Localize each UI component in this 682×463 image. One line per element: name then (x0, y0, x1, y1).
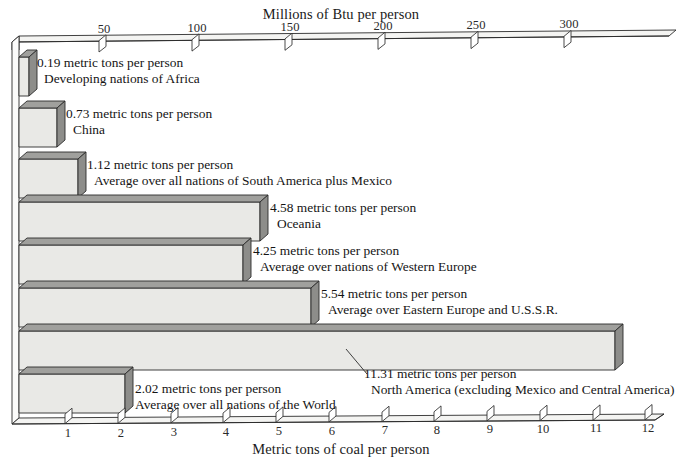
bar-south-america-plus-mexico (19, 152, 86, 198)
bar-annotation-north-america: 11.31 metric tons per person North Ameri… (364, 366, 674, 397)
top-tick-label-200: 200 (374, 19, 393, 34)
bottom-tick-label-5: 5 (276, 424, 282, 439)
bar-value-text: 1.12 metric tons per person (87, 157, 392, 173)
bar-category-text: North America (excluding Mexico and Cent… (364, 382, 674, 398)
bar-eastern-europe-and-ussr (19, 281, 319, 327)
bar-value-text: 2.02 metric tons per person (135, 381, 336, 397)
bottom-tick-label-7: 7 (382, 423, 388, 438)
bottom-tick-label-8: 8 (434, 423, 440, 438)
top-axis (12, 30, 676, 52)
bottom-tick-label-9: 9 (487, 422, 493, 437)
bar-value-text: 5.54 metric tons per person (321, 286, 558, 302)
left-axis-wall (12, 36, 19, 424)
bar-annotation-western-europe: 4.25 metric tons per person Average over… (253, 243, 477, 274)
bar-category-text: Oceania (270, 216, 416, 232)
bar-value-text: 11.31 metric tons per person (364, 366, 674, 382)
top-tick-label-50: 50 (98, 22, 111, 37)
top-tick-label-150: 150 (281, 20, 300, 35)
bar-value-text: 4.58 metric tons per person (270, 200, 416, 216)
bottom-tick-label-6: 6 (329, 424, 335, 439)
bottom-tick-label-12: 12 (642, 421, 655, 436)
bottom-axis-title: Metric tons of coal per person (0, 441, 682, 458)
bar-value-text: 0.19 metric tons per person (37, 55, 200, 71)
bar-category-text: China (66, 122, 212, 138)
bottom-tick-label-2: 2 (118, 426, 124, 441)
bar-category-text: Average over nations of Western Europe (253, 259, 477, 275)
bar-category-text: Average over Eastern Europe and U.S.S.R. (321, 302, 558, 318)
bar-annotation-world-average: 2.02 metric tons per person Average over… (135, 381, 336, 412)
top-tick-label-100: 100 (188, 21, 207, 36)
top-axis-title: Millions of Btu per person (0, 6, 682, 23)
bar-category-text: Developing nations of Africa (37, 71, 200, 87)
top-tick-label-250: 250 (467, 18, 486, 33)
coal-energy-consumption-bar-chart: Millions of Btu per person Metric tons o… (0, 0, 682, 463)
bottom-tick-label-3: 3 (171, 425, 177, 440)
bottom-tick-label-1: 1 (65, 426, 71, 441)
bar-annotation-oceania: 4.58 metric tons per person Oceania (270, 200, 416, 231)
bar-category-text: Average over all nations of South Americ… (87, 173, 392, 189)
bar-annotation-eastern-europe-and-ussr: 5.54 metric tons per person Average over… (321, 286, 558, 317)
bar-western-europe (19, 238, 251, 284)
bar-world-average (19, 367, 133, 413)
bottom-tick-label-11: 11 (590, 421, 602, 436)
bar-annotation-developing-nations-of-africa: 0.19 metric tons per person Developing n… (37, 55, 200, 86)
bottom-tick-label-10: 10 (537, 422, 550, 437)
bar-value-text: 0.73 metric tons per person (66, 106, 212, 122)
bar-category-text: Average over all nations of the World (135, 397, 336, 413)
bar-annotation-china: 0.73 metric tons per person China (66, 106, 212, 137)
bar-value-text: 4.25 metric tons per person (253, 243, 477, 259)
bottom-tick-label-4: 4 (223, 425, 229, 440)
bar-developing-nations-of-africa (19, 50, 37, 96)
top-tick-label-300: 300 (560, 17, 579, 32)
bar-annotation-south-america-plus-mexico: 1.12 metric tons per person Average over… (87, 157, 392, 188)
bar-oceania (19, 195, 268, 241)
bar-china (19, 101, 65, 147)
